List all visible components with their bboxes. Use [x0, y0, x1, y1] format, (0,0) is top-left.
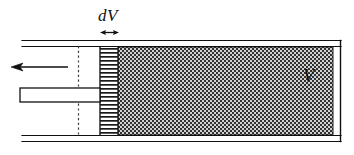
diagram-canvas — [0, 0, 354, 155]
piston-rod — [20, 88, 100, 102]
volume-label: V — [303, 67, 314, 85]
gas-volume-region — [118, 47, 333, 135]
dv-dimension-marker — [100, 30, 119, 35]
thermodynamics-cylinder-figure: dV V — [0, 0, 354, 155]
leftward-motion-arrow — [11, 63, 68, 71]
differential-volume-slab — [100, 47, 118, 135]
differential-volume-label: dV — [98, 7, 118, 24]
